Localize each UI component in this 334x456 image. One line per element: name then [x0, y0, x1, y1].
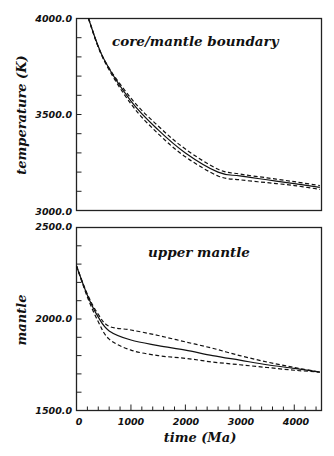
x-axis-label: time (Ma) — [164, 430, 237, 445]
top-y-tick-4000: 4000.0 — [34, 13, 72, 24]
x-tick-1000: 1000 — [118, 416, 145, 427]
bottom-x-ticks — [87, 405, 316, 411]
bottom-y-tick-2500: 2500.0 — [35, 221, 72, 232]
solid-curve — [77, 266, 320, 372]
top-y-ticks — [77, 38, 82, 192]
dashed-curve — [77, 266, 320, 372]
bottom-y-tick-2000: 2000.0 — [35, 313, 72, 324]
bottom-panel-title: upper mantle — [148, 244, 250, 260]
bottom-y-tick-1500: 1500.0 — [35, 405, 72, 416]
bottom-curves — [77, 266, 320, 372]
top-panel-title: core/mantle boundary — [112, 33, 280, 49]
x-tick-4000: 4000 — [282, 416, 310, 427]
dashed-curve — [77, 266, 320, 372]
bottom-y-axis-label: mantle — [14, 295, 29, 346]
chart-figure: core/mantle boundary 4000.0 3500.0 3000.… — [0, 0, 334, 456]
x-tick-2000: 2000 — [173, 416, 200, 427]
top-y-axis-label: temperature (K) — [14, 55, 29, 174]
top-y-tick-3500: 3500.0 — [35, 109, 72, 120]
x-tick-3000: 3000 — [228, 416, 255, 427]
top-y-tick-3000: 3000.0 — [35, 206, 72, 217]
x-tick-0: 0 — [76, 416, 83, 427]
